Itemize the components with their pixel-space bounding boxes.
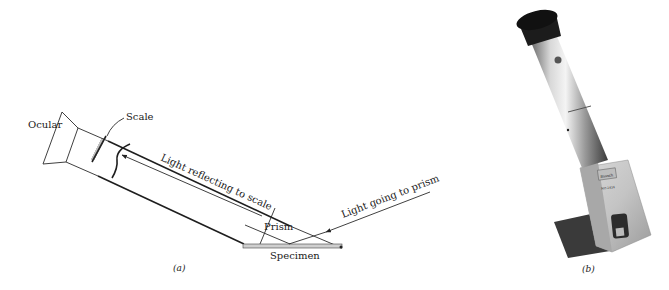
scale-graduation xyxy=(91,136,106,162)
panel-b-photo: Bausch NO 2434 (b) xyxy=(514,6,651,274)
caption-b: (b) xyxy=(582,264,595,274)
label-light-going: Light going to prism xyxy=(340,172,441,220)
caption-a: (a) xyxy=(173,263,186,273)
refractometer-figure: Ocular Scale Light reflecting to scale P… xyxy=(0,0,669,290)
scale-leader-line xyxy=(107,118,124,136)
lens-curve xyxy=(112,144,130,178)
tube xyxy=(531,34,608,168)
specimen-plate xyxy=(243,244,343,249)
label-ocular: Ocular xyxy=(28,119,62,130)
panel-a-diagram: Ocular Scale Light reflecting to scale P… xyxy=(28,111,441,273)
adjust-knob xyxy=(555,57,562,64)
label-scale: Scale xyxy=(126,111,154,122)
tube-body xyxy=(66,128,342,248)
label-light-reflecting: Light reflecting to scale xyxy=(159,152,274,212)
label-prism: Prism xyxy=(264,221,294,232)
label-specimen: Specimen xyxy=(270,250,320,261)
